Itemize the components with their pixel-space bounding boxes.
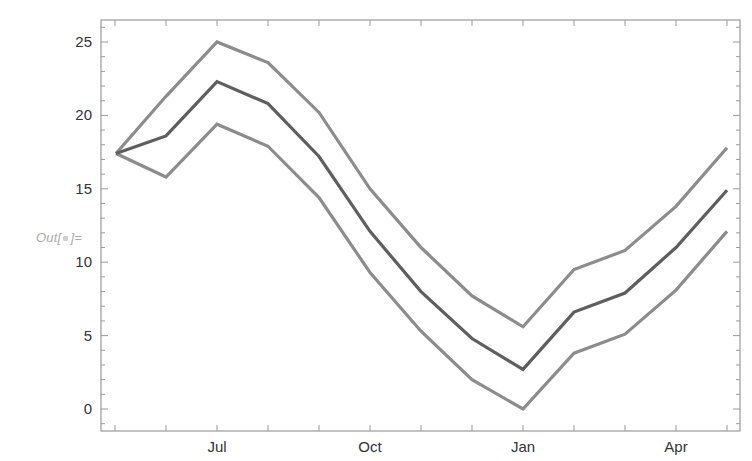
data-series (116, 42, 727, 409)
y-tick-label: 20 (75, 106, 92, 123)
plot-frame-rect (101, 20, 740, 431)
y-tick-label: 25 (75, 33, 92, 50)
x-tick-label: Jan (511, 438, 535, 455)
line-chart: 0510152025JulOctJanApr (0, 0, 752, 461)
y-tick-label: 15 (75, 180, 92, 197)
y-tick-label: 5 (84, 327, 92, 344)
y-tick-label: 0 (84, 400, 92, 417)
x-tick-label: Oct (358, 438, 382, 455)
plot-frame (101, 20, 740, 431)
series-line-lower (116, 124, 727, 409)
y-tick-label: 10 (75, 253, 92, 270)
axis-ticks (101, 20, 740, 431)
x-tick-label: Apr (664, 438, 687, 455)
x-tick-label: Jul (207, 438, 226, 455)
